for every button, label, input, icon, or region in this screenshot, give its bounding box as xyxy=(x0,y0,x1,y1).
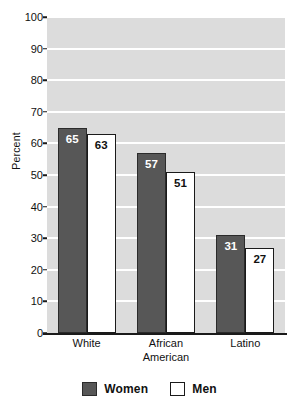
legend-item-women[interactable]: Women xyxy=(82,382,148,396)
y-axis-tickmark-100 xyxy=(43,16,47,18)
bar-women-african-american[interactable]: 57 xyxy=(137,153,166,333)
y-axis-tick-80: 80 xyxy=(2,74,43,86)
bar-value-label: 51 xyxy=(167,178,194,190)
y-axis-tick-0: 0 xyxy=(2,327,43,339)
y-axis-tickmark-80 xyxy=(43,79,47,81)
y-axis-tick-labels: 0102030405060708090100 xyxy=(0,0,43,411)
y-axis-tick-20: 20 xyxy=(2,264,43,276)
bar-men-latino[interactable]: 27 xyxy=(245,248,274,333)
bar-chart: Percent 0102030405060708090100 656357513… xyxy=(0,0,299,411)
bar-value-label: 63 xyxy=(88,140,115,152)
y-axis-tick-70: 70 xyxy=(2,106,43,118)
men-swatch xyxy=(170,382,185,396)
y-axis-tick-10: 10 xyxy=(2,295,43,307)
gridline-100 xyxy=(47,16,285,18)
x-axis-label-african-american: AfricanAmerican xyxy=(126,337,205,364)
y-axis-tickmark-70 xyxy=(43,111,47,113)
bar-value-label: 27 xyxy=(246,254,273,266)
y-axis-tickmark-0 xyxy=(43,332,47,334)
y-axis-tick-100: 100 xyxy=(2,11,43,23)
legend-label: Women xyxy=(104,382,148,396)
chart-legend: WomenMen xyxy=(0,382,299,396)
legend-label: Men xyxy=(192,382,217,396)
x-axis-label-line: Latino xyxy=(206,337,285,351)
y-axis-tickmark-10 xyxy=(43,301,47,303)
y-axis-tick-30: 30 xyxy=(2,232,43,244)
gridline-70 xyxy=(47,111,285,113)
x-axis-label-line: American xyxy=(126,351,205,365)
bar-value-label: 31 xyxy=(217,241,244,253)
y-axis-tickmark-60 xyxy=(43,143,47,145)
x-axis-category-labels: WhiteAfricanAmericanLatino xyxy=(47,337,285,375)
bar-men-white[interactable]: 63 xyxy=(87,134,116,333)
x-axis-label-line: White xyxy=(47,337,126,351)
gridline-80 xyxy=(47,79,285,81)
legend-item-men[interactable]: Men xyxy=(170,382,217,396)
y-axis-tickmark-20 xyxy=(43,269,47,271)
bar-value-label: 65 xyxy=(59,134,86,146)
y-axis-tickmark-30 xyxy=(43,237,47,239)
bar-value-label: 57 xyxy=(138,159,165,171)
x-axis-label-line: African xyxy=(126,337,205,351)
bar-men-african-american[interactable]: 51 xyxy=(166,172,195,333)
y-axis-tick-90: 90 xyxy=(2,43,43,55)
y-axis-tickmark-40 xyxy=(43,206,47,208)
y-axis-tick-50: 50 xyxy=(2,169,43,181)
x-axis-label-latino: Latino xyxy=(206,337,285,351)
y-axis-tick-40: 40 xyxy=(2,201,43,213)
gridline-90 xyxy=(47,48,285,50)
women-swatch xyxy=(82,382,97,396)
x-axis-line xyxy=(43,333,287,335)
x-axis-label-white: White xyxy=(47,337,126,351)
plot-area: 656357513127 xyxy=(47,17,285,333)
bar-women-white[interactable]: 65 xyxy=(58,128,87,333)
y-axis-tickmark-50 xyxy=(43,174,47,176)
bar-women-latino[interactable]: 31 xyxy=(216,235,245,333)
y-axis-tickmark-90 xyxy=(43,48,47,50)
y-axis-tick-60: 60 xyxy=(2,137,43,149)
